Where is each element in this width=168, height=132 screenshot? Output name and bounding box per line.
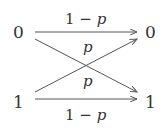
edge-label-crossover-bottom: p [83,72,93,90]
output-node-1: 1 [145,92,156,112]
input-node-1: 1 [13,92,24,112]
edge-label-0-to-0: 1 − p [65,10,107,28]
channel-diagram: 0 1 0 1 1 − p p p 1 − p [0,0,168,132]
edge-label-1-to-1: 1 − p [65,106,107,124]
output-node-0: 0 [145,22,156,42]
edge-label-crossover-top: p [83,38,93,56]
input-node-0: 0 [13,22,24,42]
